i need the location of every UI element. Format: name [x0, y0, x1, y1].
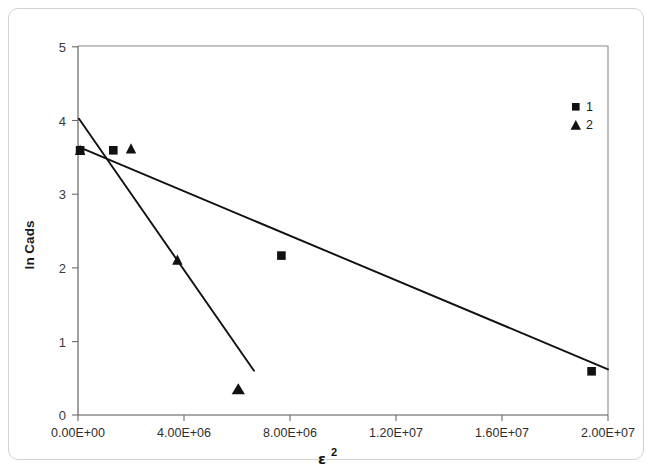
y-axis-title: ln Cads	[22, 221, 37, 270]
y-tick-label-3: 3	[59, 187, 66, 202]
x-axis-title-exponent: 2	[331, 446, 337, 458]
x-axis-title-base: ε	[318, 451, 326, 467]
y-axis-tick-labels: 5 4 3 2 1 0	[59, 40, 66, 423]
legend-marker-triangle-icon	[571, 120, 581, 130]
series-1-markers	[76, 146, 596, 376]
y-tick-label-2: 2	[59, 261, 66, 276]
legend-marker-square-icon	[572, 103, 580, 111]
data-point	[232, 383, 245, 394]
data-point	[109, 146, 118, 155]
x-tick-label-2: 8.00E+06	[263, 426, 317, 440]
legend-label-1: 1	[586, 100, 593, 114]
figure-container: 5 4 3 2 1 0 0.00E+00 4.00E+06 8.00E+06 1…	[0, 0, 652, 468]
y-tick-label-1: 1	[59, 335, 66, 350]
y-tick-label-5: 5	[59, 40, 66, 55]
x-axis-title: ε 2	[318, 446, 337, 467]
data-point	[277, 251, 286, 260]
legend: 1 2	[571, 100, 593, 132]
trendline-series-2	[79, 119, 254, 371]
x-tick-label-1: 4.00E+06	[157, 426, 211, 440]
legend-label-2: 2	[586, 118, 593, 132]
x-axis-tick-labels: 0.00E+00 4.00E+06 8.00E+06 1.20E+07 1.60…	[51, 426, 635, 440]
x-tick-label-5: 2.00E+07	[581, 426, 635, 440]
y-tick-label-0: 0	[59, 408, 66, 423]
y-axis-ticks	[72, 47, 78, 415]
x-tick-label-4: 1.60E+07	[475, 426, 529, 440]
x-tick-label-0: 0.00E+00	[51, 426, 105, 440]
x-tick-label-3: 1.20E+07	[369, 426, 423, 440]
trendline-series-1	[78, 147, 608, 370]
y-tick-label-4: 4	[59, 114, 66, 129]
data-point	[587, 367, 596, 376]
scatter-plot: 5 4 3 2 1 0 0.00E+00 4.00E+06 8.00E+06 1…	[0, 0, 652, 468]
x-axis-ticks	[78, 415, 608, 421]
data-point	[126, 143, 136, 153]
